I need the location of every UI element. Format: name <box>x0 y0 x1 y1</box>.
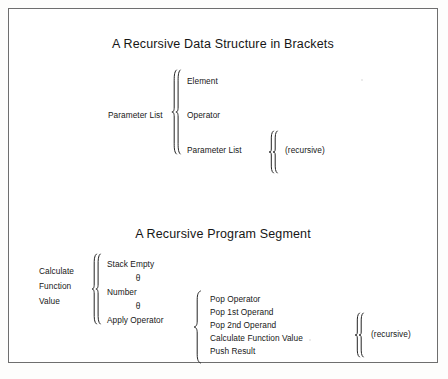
bottom-alternative-1: Stack Empty <box>107 259 154 270</box>
bottom-step-4: Calculate Function Value <box>210 333 303 344</box>
bottom-recursive-note: (recursive) <box>371 329 411 340</box>
bottom-step-5: Push Result <box>210 346 255 357</box>
figure-frame: A Recursive Data Structure in Brackets P… <box>8 8 438 363</box>
bottom-alternative-separator-1: θ <box>107 273 169 284</box>
bottom-recursive-brace-icon <box>354 312 366 358</box>
bottom-alternative-3: Apply Operator <box>107 315 164 326</box>
bottom-step-3: Pop 2nd Operand <box>210 320 276 331</box>
top-item-operator: Operator <box>187 110 220 121</box>
top-recursive-brace-icon <box>268 130 280 174</box>
bottom-alternative-2: Number <box>107 287 137 298</box>
bottom-steps-brace-icon <box>193 290 202 364</box>
scan-speck <box>309 339 311 341</box>
bottom-left-label-line-3: Value <box>39 296 60 307</box>
bottom-step-2: Pop 1st Operand <box>210 307 273 318</box>
bottom-alternative-separator-2: θ <box>107 301 169 312</box>
top-figure-title: A Recursive Data Structure in Brackets <box>9 37 437 51</box>
bottom-figure-title: A Recursive Program Segment <box>9 227 437 241</box>
bottom-left-label-line-1: Calculate <box>39 266 74 277</box>
bottom-left-label-line-2: Function <box>39 281 71 292</box>
top-group-brace-icon <box>171 69 183 155</box>
top-item-element: Element <box>187 76 218 87</box>
top-item-parameter-list: Parameter List <box>187 145 242 156</box>
bottom-step-1: Pop Operator <box>210 294 260 305</box>
scan-speck <box>361 79 363 81</box>
top-left-label: Parameter List <box>108 110 163 121</box>
bottom-alternatives-brace-icon <box>91 253 103 325</box>
top-recursive-note: (recursive) <box>285 145 325 156</box>
